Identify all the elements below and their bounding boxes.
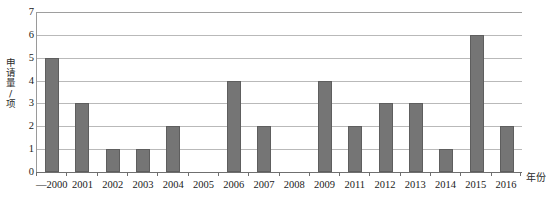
y-axis-tick-label: 7 xyxy=(16,7,34,18)
x-axis-tick-labels: —200020012002200320042005200620072008200… xyxy=(36,178,521,196)
y-axis-tick-label: 3 xyxy=(16,98,34,109)
bar xyxy=(166,126,180,172)
x-axis-tick-label: 2002 xyxy=(98,178,128,196)
bar-slot xyxy=(189,12,219,172)
x-axis-tick-slot xyxy=(218,172,248,177)
x-axis-tick-label: 2013 xyxy=(400,178,430,196)
bar xyxy=(227,81,241,172)
bar-chart: 申请量/项 01234567 —200020012002200320042005… xyxy=(0,0,548,208)
x-axis-tick-slot xyxy=(279,172,309,177)
x-axis-tick-label: 2008 xyxy=(279,178,309,196)
x-axis-tick-slot xyxy=(460,172,490,177)
x-axis-tick-mark xyxy=(460,172,461,176)
x-axis-tick-label: 2016 xyxy=(491,178,521,196)
x-axis-tick-slot xyxy=(309,172,339,177)
x-axis-tick-label: 2007 xyxy=(249,178,279,196)
x-axis-tick-marks xyxy=(36,172,521,177)
x-axis-tick-slot xyxy=(36,172,66,177)
bar xyxy=(136,149,150,172)
bar xyxy=(409,103,423,172)
y-axis-tick-label: 2 xyxy=(16,121,34,132)
x-axis-tick-slot xyxy=(491,172,521,177)
x-axis-tick-mark xyxy=(369,172,370,176)
y-axis-tick-label: 0 xyxy=(16,167,34,178)
x-axis-tick-mark xyxy=(127,172,128,176)
y-axis-tick-label: 6 xyxy=(16,30,34,41)
bar xyxy=(257,126,271,172)
x-axis-tick-mark xyxy=(188,172,189,176)
x-axis-tick-slot xyxy=(188,172,218,177)
x-axis-tick-label: 2009 xyxy=(309,178,339,196)
x-axis-tick-mark xyxy=(520,172,521,176)
x-axis-tick-mark xyxy=(430,172,431,176)
bar-slot xyxy=(492,12,522,172)
x-axis-tick-label: 2015 xyxy=(461,178,491,196)
x-axis-tick-label: 2003 xyxy=(128,178,158,196)
bar-slot xyxy=(401,12,431,172)
bar-slot xyxy=(370,12,400,172)
bar-slot xyxy=(67,12,97,172)
x-axis-tick-slot xyxy=(369,172,399,177)
bar-slot xyxy=(37,12,67,172)
y-axis-title: 申请量/项 xyxy=(1,58,15,109)
x-axis-tick-slot xyxy=(430,172,460,177)
bar-slot xyxy=(128,12,158,172)
bar-slot xyxy=(340,12,370,172)
x-axis-tick-slot xyxy=(66,172,96,177)
x-axis-tick-label: 2005 xyxy=(188,178,218,196)
x-axis-tick-mark xyxy=(66,172,67,176)
bar-slot xyxy=(98,12,128,172)
x-axis-tick-mark xyxy=(279,172,280,176)
x-axis-tick-label: 2011 xyxy=(340,178,370,196)
x-axis-tick-label: 2006 xyxy=(219,178,249,196)
x-axis-tick-label: 2004 xyxy=(158,178,188,196)
x-axis-tick-label: 2001 xyxy=(68,178,98,196)
bar-slot xyxy=(431,12,461,172)
x-axis-tick-mark xyxy=(309,172,310,176)
x-axis-tick-label: 2014 xyxy=(430,178,460,196)
y-axis-tick-labels: 01234567 xyxy=(16,0,34,208)
bar-slot xyxy=(461,12,491,172)
y-axis-tick-label: 5 xyxy=(16,52,34,63)
bar-slot xyxy=(219,12,249,172)
bar xyxy=(470,35,484,172)
x-axis-tick-slot xyxy=(400,172,430,177)
plot-area xyxy=(36,12,522,173)
bar-slot xyxy=(280,12,310,172)
bar-slot xyxy=(310,12,340,172)
bar xyxy=(500,126,514,172)
x-axis-tick-label: 2012 xyxy=(370,178,400,196)
bar xyxy=(348,126,362,172)
y-axis-tick-label: 1 xyxy=(16,144,34,155)
bar-slot xyxy=(249,12,279,172)
x-axis-tick-slot xyxy=(248,172,278,177)
x-axis-tick-mark xyxy=(36,172,37,176)
x-axis-tick-slot xyxy=(339,172,369,177)
x-axis-tick-slot xyxy=(127,172,157,177)
bar xyxy=(45,58,59,172)
bar-slot xyxy=(158,12,188,172)
x-axis-tick-mark xyxy=(157,172,158,176)
bars-layer xyxy=(37,12,522,172)
x-axis-tick-mark xyxy=(218,172,219,176)
x-axis-tick-mark xyxy=(491,172,492,176)
x-axis-tick-mark xyxy=(97,172,98,176)
bar xyxy=(318,81,332,172)
y-axis-tick-label: 4 xyxy=(16,75,34,86)
x-axis-tick-mark xyxy=(400,172,401,176)
bar xyxy=(379,103,393,172)
x-axis-tick-slot xyxy=(157,172,187,177)
bar xyxy=(106,149,120,172)
x-axis-tick-mark xyxy=(248,172,249,176)
bar xyxy=(75,103,89,172)
x-axis-tick-label: —2000 xyxy=(36,178,68,196)
x-axis-tick-slot xyxy=(97,172,127,177)
bar xyxy=(439,149,453,172)
x-axis-tick-mark xyxy=(339,172,340,176)
x-axis-title: 年份 xyxy=(526,172,546,184)
